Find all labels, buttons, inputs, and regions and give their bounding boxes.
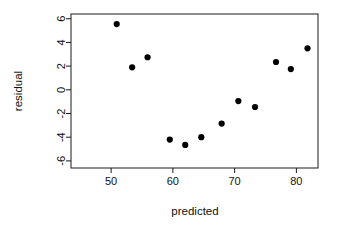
x-axis-title: predicted	[171, 205, 218, 217]
y-tick-label: 2	[55, 63, 67, 69]
data-point	[252, 104, 258, 110]
data-point	[144, 54, 150, 60]
data-point	[167, 136, 173, 142]
data-point	[235, 98, 241, 104]
y-tick-label: 4	[55, 39, 67, 45]
data-point	[273, 59, 279, 65]
plot-canvas: 50607080 6420-2-4-6 predicted residual	[0, 0, 339, 231]
x-tick-label: 80	[290, 175, 302, 187]
data-point	[114, 21, 120, 27]
data-point	[288, 66, 294, 72]
x-tick-label: 70	[229, 175, 241, 187]
data-point	[182, 142, 188, 148]
data-point	[304, 45, 310, 51]
y-axis-title: residual	[12, 71, 24, 111]
y-tick-label: -2	[55, 109, 67, 119]
residual-vs-predicted-scatter-plot: 50607080 6420-2-4-6 predicted residual	[0, 0, 339, 231]
plot-background	[0, 0, 339, 231]
data-point	[198, 134, 204, 140]
data-point	[219, 120, 225, 126]
y-tick-label: -4	[55, 132, 67, 142]
x-tick-label: 60	[167, 175, 179, 187]
y-tick-label: 0	[55, 87, 67, 93]
data-point	[129, 64, 135, 70]
y-tick-label: -6	[55, 156, 67, 166]
y-tick-label: 6	[55, 16, 67, 22]
x-tick-label: 50	[105, 175, 117, 187]
